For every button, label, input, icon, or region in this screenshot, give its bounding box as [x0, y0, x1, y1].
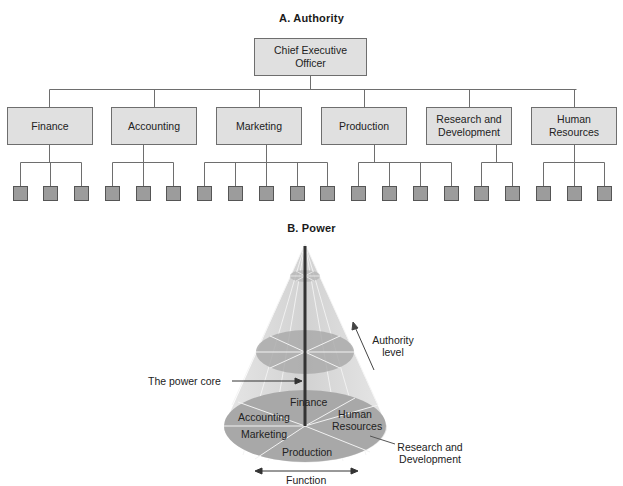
base-label-production: Production	[282, 446, 332, 458]
hr-line2: Resources	[332, 420, 378, 432]
rd-line2: Development	[395, 453, 465, 465]
authority-level-line2: level	[372, 346, 414, 358]
base-label-finance: Finance	[290, 396, 327, 408]
rd-line1: Research and	[395, 441, 465, 453]
base-label-human-resources: Human Resources	[332, 408, 378, 432]
power-core-label: The power core	[148, 375, 221, 387]
authority-level-label: Authority level	[372, 334, 414, 358]
authority-level-line1: Authority	[372, 334, 414, 346]
base-label-marketing: Marketing	[241, 428, 287, 440]
research-development-label: Research and Development	[395, 441, 465, 465]
hr-line1: Human	[332, 408, 378, 420]
function-label: Function	[286, 474, 326, 486]
power-cone	[0, 0, 623, 486]
base-label-accounting: Accounting	[238, 411, 290, 423]
